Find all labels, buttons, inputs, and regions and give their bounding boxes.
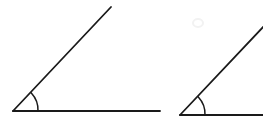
right-angle-arc-marker xyxy=(198,97,205,115)
left-angle-diagonal-ray xyxy=(13,7,111,111)
right-angle-diagonal-ray xyxy=(180,24,263,115)
angles-diagram-svg xyxy=(0,0,263,127)
right-angle-figure xyxy=(180,24,263,115)
faint-smudge-mark xyxy=(193,19,203,27)
diagram-canvas xyxy=(0,0,263,127)
left-angle-figure xyxy=(13,7,160,111)
left-angle-arc-marker xyxy=(31,93,38,111)
